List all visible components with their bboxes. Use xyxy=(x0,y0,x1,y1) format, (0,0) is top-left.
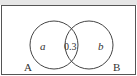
region-b-label: b xyxy=(98,40,104,52)
set-a-label: A xyxy=(24,61,32,73)
region-a-label: a xyxy=(40,40,46,52)
set-b-label: B xyxy=(113,61,120,73)
venn-diagram: a 0.3 b A B xyxy=(0,0,137,76)
intersection-label: 0.3 xyxy=(64,41,77,52)
